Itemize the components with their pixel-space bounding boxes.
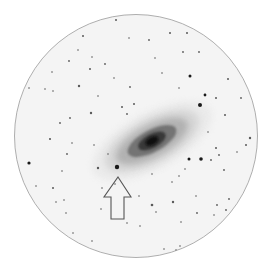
telescope-view: [0, 0, 272, 270]
